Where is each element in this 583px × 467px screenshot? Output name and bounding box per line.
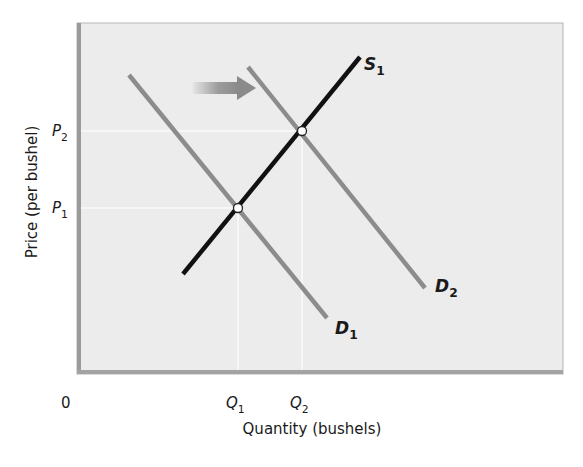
origin-label: 0: [61, 394, 71, 412]
y-tick-p2: P2: [52, 122, 68, 144]
x-tick-labels: Q1Q2: [226, 394, 309, 416]
x-tick-q1: Q1: [226, 394, 245, 416]
y-axis-title: Price (per bushel): [23, 126, 41, 259]
y-tick-p1: P1: [52, 199, 68, 221]
x-axis-title: Quantity (bushels): [243, 420, 382, 438]
supply-demand-chart: S1D1D2 P2P1 Q1Q2 0 Quantity (bushels) Pr…: [0, 0, 583, 467]
e2-point: [298, 127, 307, 136]
x-axis-bar: [77, 370, 563, 374]
y-axis-bar: [77, 23, 81, 374]
y-tick-labels: P2P1: [52, 122, 68, 221]
plot-background: [77, 23, 563, 374]
plot-area: [77, 23, 563, 374]
e1-point: [234, 204, 243, 213]
x-tick-q2: Q2: [290, 394, 309, 416]
